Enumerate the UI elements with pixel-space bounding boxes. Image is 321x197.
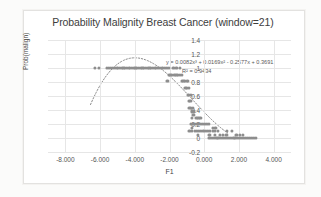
gridline-horizontal [48,152,291,153]
y-axis-tick-label: -0.2 [180,149,200,156]
gridline-vertical [100,40,101,152]
chart-title: Probability Malignity Breast Cancer (win… [23,16,303,28]
y-axis-title: Prob(malign) [22,33,29,70]
gridline-vertical [65,40,66,152]
y-axis-tick-label: 1.4 [180,37,200,44]
gridline-vertical [135,40,136,152]
x-axis-tick-label: -2.000 [160,156,178,163]
x-axis-tick-label: 2.000 [231,156,247,163]
x-axis-tick-label: -6.000 [91,156,109,163]
screenshot-page: Probability Malignity Breast Cancer (win… [0,0,321,197]
x-axis-tick-label: -8.000 [56,156,74,163]
x-axis-tick-label: -4.000 [126,156,144,163]
x-axis-tick-label: 4.000 [266,156,282,163]
gridline-vertical [274,40,275,152]
y-axis-tick-label: 1.2 [180,51,200,58]
gridline-vertical [170,40,171,152]
y-axis-tick-label: 1 [180,65,200,72]
gridline-vertical [204,40,205,152]
x-axis-title: F1 [48,168,291,175]
x-axis-tick-label: 0.000 [196,156,212,163]
plot-area: -0.200.20.40.60.811.21.4-8.000-6.000-4.0… [48,40,291,152]
